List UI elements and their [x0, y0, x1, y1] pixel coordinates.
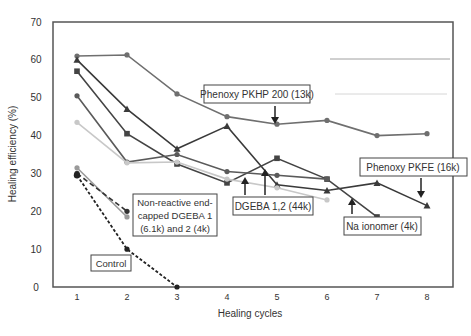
y-tick-label: 10 — [30, 244, 42, 255]
y-axis-ticks: 010203040506070 — [30, 17, 42, 293]
data-point — [174, 91, 179, 96]
y-tick-label: 30 — [30, 168, 42, 179]
series-line — [77, 122, 327, 200]
annotation-non-reactive-line3: (6.1k) and 2 (4k) — [140, 223, 210, 234]
data-point — [74, 172, 80, 178]
arrow-down-icon — [271, 106, 279, 124]
x-tick-label: 5 — [274, 292, 279, 302]
annotation-pkfe-text: Phenoxy PKFE (16k) — [366, 162, 459, 173]
series-line — [77, 168, 127, 217]
annotation-pkhp-text: Phenoxy PKHP 200 (13k) — [200, 89, 314, 100]
x-tick-label: 4 — [224, 292, 229, 302]
annotation-pkfe: Phenoxy PKFE (16k) — [360, 158, 467, 198]
data-point — [324, 118, 329, 123]
x-axis-ticks: 12345678 — [74, 292, 429, 302]
data-point — [124, 131, 130, 137]
annotation-dgeba-text: DGEBA 1,2 (44k) — [235, 201, 312, 212]
y-tick-label: 70 — [30, 17, 42, 28]
data-point — [174, 159, 179, 164]
y-tick-label: 50 — [30, 92, 42, 103]
data-point — [74, 68, 80, 74]
x-tick-label: 2 — [124, 292, 129, 302]
y-tick-label: 0 — [33, 282, 39, 293]
annotation-na-ionomer: Na ionomer (4k) — [344, 198, 421, 235]
data-point — [274, 155, 280, 161]
annotation-non-reactive: Non-reactive end- capped DGEBA 1 (6.1k) … — [133, 194, 217, 236]
x-tick-label: 6 — [324, 292, 329, 302]
data-point — [274, 173, 279, 178]
data-point — [374, 133, 379, 138]
x-axis-label: Healing cycles — [218, 308, 282, 319]
x-tick-label: 1 — [74, 292, 79, 302]
data-point — [224, 177, 229, 182]
data-point — [74, 120, 79, 125]
x-tick-label: 8 — [424, 292, 429, 302]
annotation-non-reactive-line2: capped DGEBA 1 — [138, 210, 212, 221]
y-tick-label: 20 — [30, 206, 42, 217]
data-point — [124, 160, 129, 165]
annotation-control: Control — [91, 255, 131, 271]
annotation-non-reactive-line1: Non-reactive end- — [137, 197, 213, 208]
data-point — [174, 152, 179, 157]
plot-frame — [53, 22, 453, 287]
data-point — [274, 185, 279, 190]
annotation-control-text: Control — [96, 258, 127, 269]
data-point — [124, 209, 129, 214]
data-point — [224, 123, 231, 130]
chart: 010203040506070 12345678 Healing cycles … — [0, 0, 471, 336]
annotation-dgeba: DGEBA 1,2 (44k) — [233, 169, 313, 215]
faint-guide-lines — [330, 59, 450, 94]
data-point — [224, 114, 229, 119]
data-point — [74, 56, 81, 63]
annotation-pkhp: Phenoxy PKHP 200 (13k) — [200, 85, 314, 124]
arrow-down-icon — [417, 178, 425, 198]
data-point — [74, 165, 79, 170]
arrow-up-icon — [241, 177, 249, 195]
series-4 — [74, 120, 329, 203]
data-point — [124, 214, 129, 219]
data-point — [124, 52, 129, 57]
data-point — [324, 197, 329, 202]
data-point — [224, 169, 229, 174]
y-axis-label: Healing efficiency (%) — [7, 106, 18, 203]
data-point — [124, 247, 129, 252]
y-tick-label: 60 — [30, 54, 42, 65]
y-tick-label: 40 — [30, 130, 42, 141]
data-point — [74, 93, 79, 98]
data-point — [324, 177, 329, 182]
x-tick-label: 7 — [374, 292, 379, 302]
annotation-na-ionomer-text: Na ionomer (4k) — [346, 221, 418, 232]
data-point — [174, 284, 179, 289]
x-tick-label: 3 — [174, 292, 179, 302]
series-5 — [74, 165, 129, 219]
data-point — [424, 131, 429, 136]
